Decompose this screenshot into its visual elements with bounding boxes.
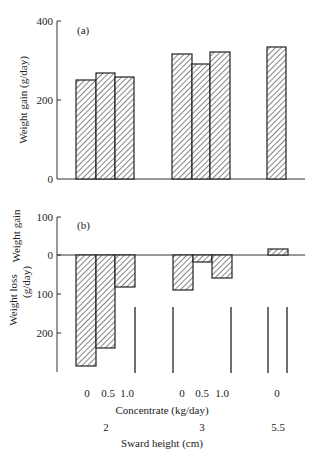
figure-svg: 400 200 0 (a) Weight gain (g/day) 100 0 … — [0, 0, 318, 462]
bar-a-3-0.5 — [192, 64, 210, 179]
bar-a-3-0 — [172, 54, 192, 179]
b-tick-100-gain: 100 — [37, 211, 54, 223]
b-tick-100-loss: 100 — [37, 288, 54, 300]
a-y-axis-label: Weight gain (g/day) — [17, 56, 30, 144]
sward-label: 3 — [199, 421, 205, 433]
b-tick-200-loss: 200 — [37, 327, 54, 339]
bar-b-3-0 — [173, 255, 193, 290]
b-y-label-loss: Weight loss — [7, 274, 19, 325]
concentrate-label: 0 — [84, 387, 90, 399]
panel-b-label: (b) — [77, 219, 90, 232]
figure: 400 200 0 (a) Weight gain (g/day) 100 0 … — [0, 0, 318, 462]
concentrate-label: 0.5 — [101, 387, 115, 399]
sward-label: 5.5 — [271, 421, 285, 433]
bar-b-2-1.0 — [115, 255, 135, 287]
concentrate-label: 1.0 — [215, 387, 229, 399]
b-tick-0: 0 — [48, 249, 54, 261]
bar-b-2-0 — [76, 255, 96, 366]
bar-b-2-0.5 — [96, 255, 115, 348]
bar-b-3-0.5 — [193, 255, 212, 262]
sward-axis-title: Sward height (cm) — [121, 437, 203, 450]
a-tick-200: 200 — [37, 94, 54, 106]
panel-a-label: (a) — [77, 24, 90, 37]
bar-a-2-1.0 — [115, 77, 134, 179]
x-axis-labels: 0 0.5 1.0 0 0.5 1.0 0 Concentrate (kg/da… — [84, 387, 285, 450]
panel-b: 100 0 100 200 (b) Weight gain Weight los… — [7, 209, 305, 373]
concentrate-label: 1.0 — [120, 387, 134, 399]
b-y-label-gain: Weight gain — [10, 209, 22, 263]
sward-label: 2 — [103, 421, 109, 433]
concentrate-label: 0.5 — [195, 387, 209, 399]
concentrate-axis-title: Concentrate (kg/day) — [115, 404, 208, 417]
bar-a-3-1.0 — [210, 52, 230, 179]
bar-b-3-1.0 — [212, 255, 232, 278]
panel-a: 400 200 0 (a) Weight gain (g/day) — [17, 15, 305, 185]
bar-a-2-0.5 — [96, 73, 115, 179]
bar-b-5.5-0 — [268, 249, 288, 255]
b-y-label-unit: (g/day) — [20, 266, 33, 298]
a-tick-400: 400 — [37, 15, 54, 27]
bar-a-5.5-0 — [267, 47, 286, 179]
bar-a-2-0 — [76, 80, 96, 179]
concentrate-label: 0 — [274, 387, 280, 399]
a-tick-0: 0 — [48, 173, 54, 185]
concentrate-label: 0 — [179, 387, 185, 399]
